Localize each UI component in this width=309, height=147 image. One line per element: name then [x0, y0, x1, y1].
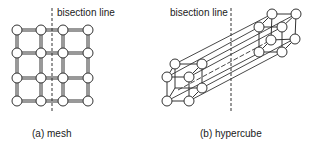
- mesh-caption: (a) mesh: [32, 128, 71, 139]
- mesh-node: [36, 48, 46, 58]
- hypercube-node: [290, 34, 300, 44]
- left-cube-nodes: [162, 59, 207, 106]
- mesh-node: [83, 96, 93, 106]
- mesh-node: [12, 73, 22, 83]
- right-cube-edges: [259, 14, 296, 52]
- mesh-node: [12, 48, 22, 58]
- mesh-node: [12, 96, 22, 106]
- mesh-node: [12, 25, 22, 35]
- hypercube-node: [254, 22, 264, 32]
- hypercube-node: [254, 47, 264, 57]
- mesh-bisection-label: bisection line: [57, 7, 115, 18]
- mesh-node: [83, 48, 93, 58]
- bisection-figure: bisection line (a) mesh: [0, 0, 309, 147]
- mesh-node: [36, 25, 46, 35]
- hypercube-node: [267, 9, 277, 19]
- mesh-node: [36, 96, 46, 106]
- mesh-node: [83, 73, 93, 83]
- mesh-node: [58, 48, 68, 58]
- hypercube-node: [197, 83, 207, 93]
- hypercube-node: [291, 9, 301, 19]
- hypercube-node: [277, 47, 287, 57]
- hypercube-bisection-label: bisection line: [170, 7, 228, 18]
- mesh-node: [58, 73, 68, 83]
- left-cube-edges: [167, 64, 202, 101]
- hypercube-node: [277, 22, 287, 32]
- hypercube-node: [162, 72, 172, 82]
- hypercube-node: [197, 59, 207, 69]
- mesh-node: [83, 25, 93, 35]
- mesh-node: [58, 25, 68, 35]
- hypercube-node: [162, 96, 172, 106]
- hypercube-node: [170, 59, 180, 69]
- hypercube-panel: bisection line (b) hypercube: [162, 7, 301, 139]
- mesh-panel: bisection line (a) mesh: [12, 7, 115, 139]
- hypercube-node: [266, 35, 276, 45]
- hypercube-node: [184, 72, 194, 82]
- hypercube-caption: (b) hypercube: [200, 128, 262, 139]
- mesh-node: [36, 73, 46, 83]
- mesh-node: [58, 96, 68, 106]
- hypercube-node: [184, 96, 194, 106]
